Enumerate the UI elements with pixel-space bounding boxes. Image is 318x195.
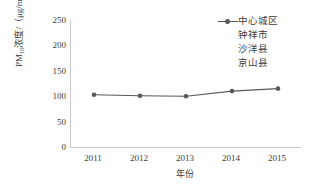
x-axis-title: 年份 — [70, 168, 300, 180]
legend-item-label: 京山县 — [238, 56, 268, 70]
x-axis-tick-label: 2014 — [211, 152, 251, 164]
x-axis-tick-labels: 20112012201320142015 — [70, 152, 300, 164]
data-point-marker — [92, 92, 97, 97]
data-point-marker — [276, 86, 281, 91]
y-axis-title-mid: 浓度/（μg/m — [14, 0, 24, 48]
y-axis-tick-label: 0 — [40, 142, 66, 152]
y-axis-title-subscript: 10 — [18, 48, 25, 55]
data-point-marker — [184, 94, 189, 99]
legend-item-label: 钟祥市 — [238, 28, 268, 42]
y-axis-tick-label: 50 — [40, 117, 66, 127]
y-axis-tick-label: 200 — [40, 40, 66, 50]
legend-item[interactable]: 沙洋县 — [218, 42, 316, 56]
y-axis-title: PM10浓度/（μg/m3） — [10, 0, 24, 92]
legend-item[interactable]: 中心城区 — [218, 14, 316, 28]
legend-marker-icon — [218, 43, 238, 55]
legend-item[interactable]: 钟祥市 — [218, 28, 316, 42]
legend: 中心城区钟祥市沙洋县京山县 — [218, 14, 316, 70]
chart-figure: PM10浓度/（μg/m3） 050100150200250 201120122… — [0, 0, 318, 195]
data-point-marker — [138, 93, 143, 98]
x-axis-tick-label: 2013 — [165, 152, 205, 164]
legend-dot-icon — [225, 19, 230, 24]
y-axis-tick-label: 250 — [40, 15, 66, 25]
x-axis-tick-label: 2011 — [73, 152, 113, 164]
x-axis-tick-label: 2015 — [257, 152, 297, 164]
y-axis-tick-label: 150 — [40, 66, 66, 76]
legend-marker-icon — [218, 29, 238, 41]
y-axis-tick-labels: 050100150200250 — [38, 0, 66, 195]
data-point-marker — [230, 89, 235, 94]
x-axis-tick-label: 2012 — [119, 152, 159, 164]
legend-item-label: 中心城区 — [238, 14, 278, 28]
y-axis-title-prefix: PM — [14, 54, 24, 67]
legend-marker-icon — [218, 57, 238, 69]
legend-marker-icon — [218, 15, 238, 27]
y-axis-tick-label: 100 — [40, 91, 66, 101]
legend-item[interactable]: 京山县 — [218, 56, 316, 70]
legend-item-label: 沙洋县 — [238, 42, 268, 56]
